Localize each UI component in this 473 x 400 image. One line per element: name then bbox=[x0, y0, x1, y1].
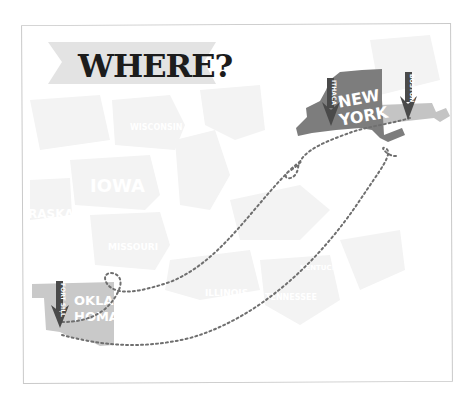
svg-text:RASKA: RASKA bbox=[28, 207, 74, 221]
page-title: WHERE? bbox=[77, 47, 233, 85]
svg-text:ITHACA: ITHACA bbox=[331, 80, 338, 105]
svg-text:BOSTON: BOSTON bbox=[409, 74, 416, 102]
travel-map: IOWA RASKA MISSOURI ILLINOIS WISCONSIN T… bbox=[0, 0, 473, 400]
svg-text:MISSOURI: MISSOURI bbox=[108, 242, 158, 252]
svg-text:HOMA: HOMA bbox=[74, 309, 119, 324]
svg-text:IOWA: IOWA bbox=[90, 175, 145, 196]
svg-text:FORT SILL: FORT SILL bbox=[60, 283, 67, 317]
svg-text:KENTUCKY: KENTUCKY bbox=[300, 264, 343, 272]
oklahoma-label: OKLA HOMA bbox=[74, 293, 119, 324]
svg-text:ILLINOIS: ILLINOIS bbox=[205, 288, 248, 298]
svg-text:TENNESSEE: TENNESSEE bbox=[265, 293, 317, 302]
title-banner: WHERE? bbox=[48, 42, 233, 85]
svg-text:WISCONSIN: WISCONSIN bbox=[130, 123, 182, 132]
